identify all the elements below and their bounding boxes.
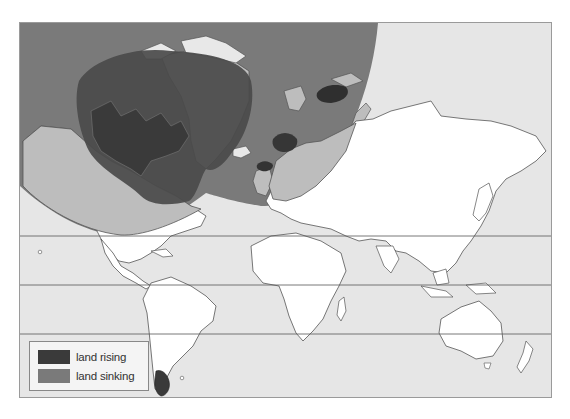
legend-item-land-rising: land rising bbox=[38, 350, 126, 364]
legend-label: land rising bbox=[76, 351, 126, 363]
pacific-island bbox=[38, 250, 42, 254]
land-sinking-swatch bbox=[38, 369, 70, 383]
falkland-islands bbox=[180, 376, 184, 380]
map-legend: land rising land sinking bbox=[29, 341, 149, 391]
legend-label: land sinking bbox=[76, 370, 134, 382]
legend-item-land-sinking: land sinking bbox=[38, 369, 134, 383]
land-rising-swatch bbox=[38, 350, 70, 364]
world-map: land rising land sinking bbox=[19, 22, 552, 398]
